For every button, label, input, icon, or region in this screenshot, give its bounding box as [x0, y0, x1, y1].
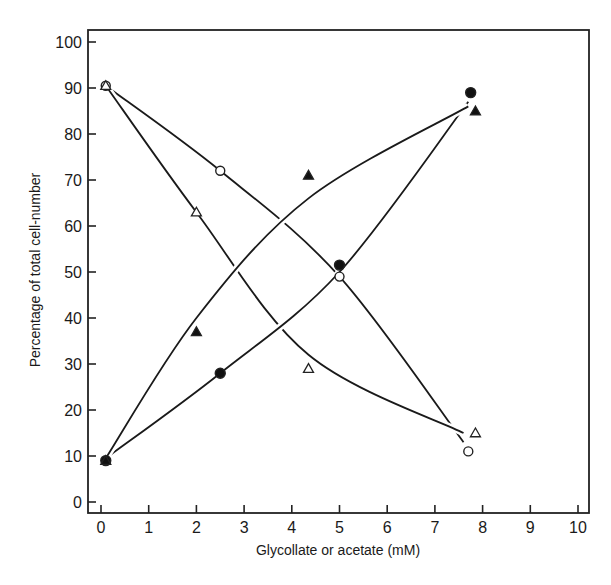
filled-triangle-marker: [303, 170, 313, 179]
x-axis: 012345678910: [97, 505, 587, 536]
x-tick-label: 7: [430, 519, 439, 536]
open-triangle-marker: [470, 428, 480, 437]
y-tick-label: 50: [64, 264, 82, 281]
filled-triangle-marker: [470, 106, 480, 115]
x-tick-label: 3: [240, 519, 249, 536]
open-circle-marker: [464, 447, 473, 456]
curve-filled-circle: [106, 102, 469, 459]
open-triangle-marker: [303, 364, 313, 373]
x-tick-label: 6: [383, 519, 392, 536]
y-tick-label: 90: [64, 80, 82, 97]
y-axis-label: Percentage of total cell-number: [27, 172, 43, 367]
y-tick-label: 0: [73, 494, 82, 511]
filled-circle-marker: [466, 88, 476, 98]
y-tick-label: 10: [64, 448, 82, 465]
y-tick-label: 70: [64, 172, 82, 189]
x-tick-label: 8: [478, 519, 487, 536]
y-tick-label: 30: [64, 356, 82, 373]
y-tick-label: 100: [55, 34, 82, 51]
filled-circle-marker: [215, 368, 225, 378]
y-tick-label: 80: [64, 126, 82, 143]
x-tick-label: 1: [144, 519, 153, 536]
curve-halo: [106, 102, 469, 459]
y-axis: 0102030405060708090100: [55, 34, 96, 511]
y-tick-label: 60: [64, 218, 82, 235]
open-circle-marker: [216, 166, 225, 175]
open-circle-marker: [335, 272, 344, 281]
x-tick-label: 10: [569, 519, 587, 536]
curves: [106, 86, 469, 459]
filled-circle-marker: [335, 260, 345, 270]
data-markers: [101, 81, 481, 466]
y-tick-label: 20: [64, 402, 82, 419]
x-axis-label: Glycollate or acetate (mM): [256, 542, 420, 558]
x-tick-label: 5: [335, 519, 344, 536]
x-tick-label: 9: [526, 519, 535, 536]
x-tick-label: 0: [97, 519, 106, 536]
x-tick-label: 4: [287, 519, 296, 536]
y-tick-label: 40: [64, 310, 82, 327]
x-tick-label: 2: [192, 519, 201, 536]
chart: 0102030405060708090100 012345678910 Glyc…: [0, 0, 611, 585]
